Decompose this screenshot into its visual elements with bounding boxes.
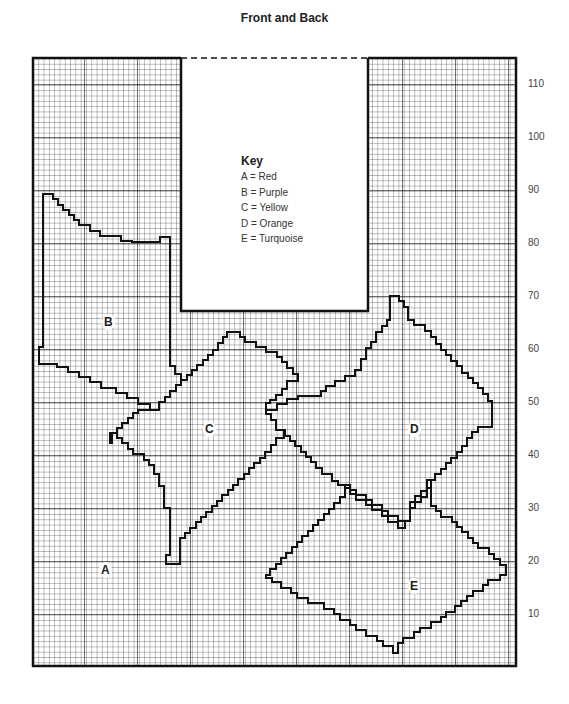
region-label-d: D [408, 421, 421, 437]
region-d-outline [266, 296, 492, 528]
key-item-d: D = Orange [241, 216, 303, 232]
key-item-b: B = Purple [241, 185, 303, 201]
row-label-30: 30 [528, 502, 539, 513]
region-label-b: B [102, 314, 115, 330]
row-label-110: 110 [528, 78, 544, 89]
row-label-60: 60 [528, 343, 539, 354]
row-label-100: 100 [528, 131, 545, 142]
key-item-e: E = Turquoise [241, 231, 303, 247]
region-label-a: A [99, 562, 112, 578]
outline-layer [0, 0, 569, 704]
key-heading: Key [241, 153, 303, 169]
region-e-outline [266, 480, 506, 653]
row-label-90: 90 [528, 184, 539, 195]
row-label-80: 80 [528, 237, 539, 248]
row-label-50: 50 [528, 396, 539, 407]
row-label-40: 40 [528, 449, 539, 460]
region-label-e: E [408, 578, 420, 594]
key-item-a: A = Red [241, 169, 303, 185]
row-label-10: 10 [528, 608, 539, 619]
color-key: Key A = Red B = Purple C = Yellow D = Or… [241, 153, 303, 247]
region-b-outline [39, 194, 181, 410]
row-label-70: 70 [528, 290, 539, 301]
row-label-20: 20 [528, 555, 539, 566]
key-item-c: C = Yellow [241, 200, 303, 216]
region-c-outline [110, 332, 298, 564]
region-label-c: C [203, 421, 216, 437]
